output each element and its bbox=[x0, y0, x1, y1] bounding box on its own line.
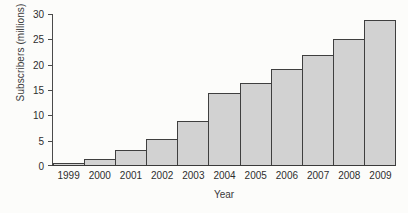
y-axis-tick-mark bbox=[48, 165, 52, 166]
x-axis-tick-label: 1999 bbox=[53, 170, 84, 181]
y-axis-tick-labels: 051015202530 bbox=[22, 8, 44, 172]
bar-2009 bbox=[364, 20, 396, 165]
x-axis-title: Year bbox=[52, 189, 396, 200]
bar-1999 bbox=[53, 163, 85, 165]
y-axis-tick-mark bbox=[48, 141, 52, 142]
y-axis-tick-label: 25 bbox=[22, 34, 44, 45]
bar-2001 bbox=[115, 150, 147, 165]
y-axis-tick-label: 10 bbox=[22, 110, 44, 121]
x-axis-tick-label: 2004 bbox=[209, 170, 240, 181]
x-axis-tick-label: 2005 bbox=[240, 170, 271, 181]
bar-2004 bbox=[208, 93, 240, 165]
x-axis-tick-label: 2001 bbox=[115, 170, 146, 181]
x-axis-line bbox=[52, 165, 396, 166]
y-axis-tick-mark bbox=[48, 39, 52, 40]
bar-chart-figure: Subscribers (millions) 051015202530 1999… bbox=[0, 0, 408, 213]
x-axis-tick-label: 2006 bbox=[271, 170, 302, 181]
y-axis-tick-label: 15 bbox=[22, 85, 44, 96]
bar-2003 bbox=[177, 121, 209, 165]
y-axis-tick-label: 30 bbox=[22, 9, 44, 20]
x-axis-tick-label: 2002 bbox=[147, 170, 178, 181]
y-axis-tick-mark bbox=[48, 14, 52, 15]
bar-2008 bbox=[333, 39, 365, 165]
bar-2005 bbox=[240, 83, 272, 165]
x-axis-tick-labels: 1999200020012002200320042005200620072008… bbox=[53, 170, 396, 181]
x-axis-tick-label: 2003 bbox=[178, 170, 209, 181]
y-axis-tick-label: 5 bbox=[22, 135, 44, 146]
plot-area bbox=[52, 14, 396, 166]
bar-2006 bbox=[271, 69, 303, 165]
x-axis-tick-label: 2000 bbox=[84, 170, 115, 181]
bar-2000 bbox=[84, 159, 116, 165]
x-axis-tick-label: 2007 bbox=[303, 170, 334, 181]
bar-2002 bbox=[146, 139, 178, 165]
y-axis-tick-label: 20 bbox=[22, 59, 44, 70]
y-axis-tick-mark bbox=[48, 90, 52, 91]
y-axis-tick-mark bbox=[48, 65, 52, 66]
bar-series bbox=[53, 14, 396, 165]
x-axis-tick-label: 2009 bbox=[365, 170, 396, 181]
y-axis-tick-mark bbox=[48, 115, 52, 116]
y-axis-tick-label: 0 bbox=[22, 161, 44, 172]
x-axis-tick-label: 2008 bbox=[334, 170, 365, 181]
bar-2007 bbox=[302, 55, 334, 165]
